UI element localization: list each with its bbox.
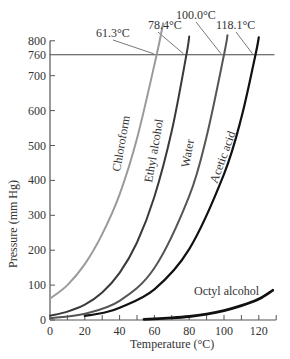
curve-acetic-acid [85, 37, 259, 316]
y-tick-label: 300 [28, 208, 46, 222]
curve-ethyl-alcohol [50, 37, 189, 316]
x-axis-title: Temperature (°C) [130, 337, 214, 351]
x-tick-label: 60 [148, 324, 160, 338]
curve-label-ethyl: Ethyl alcohol [141, 117, 166, 183]
x-tick-label: 0 [47, 324, 53, 338]
bp-label-acetic: 118.1°C [216, 18, 255, 32]
y-tick-label: 100 [28, 278, 46, 292]
curve-label-octyl: Octyl alcohol [194, 284, 260, 298]
x-tick-label: 40 [114, 324, 126, 338]
y-tick-label-760: 760 [28, 48, 46, 62]
y-tick-label: 200 [28, 243, 46, 257]
y-tick-label: 500 [28, 139, 46, 153]
curves [50, 23, 273, 319]
y-axis-title: Pressure (mm Hg) [6, 180, 20, 268]
vapor-pressure-chart: 0100200300400500600700800760020406080100… [0, 0, 290, 359]
curve-label-acetic: Acetic acid [207, 129, 239, 185]
y-tick-label: 800 [28, 34, 46, 48]
x-tick-label: 120 [250, 324, 268, 338]
x-tick-label: 80 [183, 324, 195, 338]
x-tick-label: 100 [215, 324, 233, 338]
y-tick-label: 700 [28, 69, 46, 83]
y-tick-label: 0 [40, 313, 46, 327]
y-tick-label: 600 [28, 104, 46, 118]
bp-label-chloroform: 61.3°C [96, 26, 130, 40]
bp-leader-line [113, 40, 154, 54]
bp-leader-line [236, 32, 252, 54]
curve-label-water: Water [178, 138, 197, 168]
bp-label-water: 100.0°C [176, 8, 216, 22]
x-tick-label: 20 [79, 324, 91, 338]
y-tick-label: 400 [28, 173, 46, 187]
